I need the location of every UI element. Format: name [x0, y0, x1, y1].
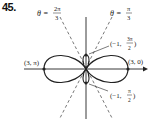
label-neg1-pi2-suffix: ) — [133, 92, 136, 100]
label-2pi3-den: 3 — [55, 14, 58, 21]
label-neg1-pi2-prefix: (−1, — [110, 92, 122, 100]
leader-line-top — [89, 46, 109, 54]
label-theta-pi3: θ = — [110, 9, 121, 18]
point-neg1-pi-2 — [85, 82, 88, 85]
point-neg1-3pi-2 — [85, 54, 88, 57]
label-3-0: (3, 0) — [128, 58, 144, 66]
axis-arrow-icon — [143, 67, 148, 72]
label-pi2-den: 2 — [128, 97, 131, 103]
label-pi2-num: π — [128, 88, 131, 94]
label-neg1-3pi2-prefix: (−1, — [110, 40, 122, 48]
polar-graph: θ = 2π 3 θ = π 3 (3, π) (3, 0) (−1, 3π 2… — [0, 0, 153, 123]
label-theta-2pi3: θ = — [37, 9, 48, 18]
leader-line-bottom — [89, 84, 108, 91]
label-pi3-den: 3 — [127, 14, 130, 21]
label-2pi3-num: 2π — [54, 5, 61, 12]
label-neg1-3pi2-suffix: ) — [134, 40, 137, 48]
label-3pi2-den: 2 — [128, 45, 131, 51]
label-pi3-num: π — [127, 5, 131, 12]
label-3-pi: (3, π) — [24, 59, 40, 67]
point-3-0 — [126, 67, 129, 70]
label-3pi2-num: 3π — [127, 36, 133, 42]
point-3-pi — [42, 67, 45, 70]
